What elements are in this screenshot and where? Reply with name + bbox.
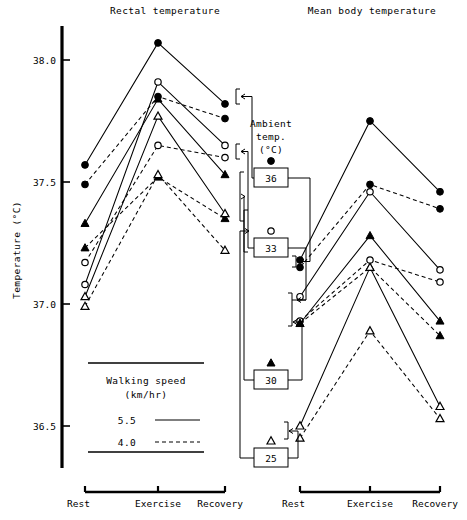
- series-line: [81, 95, 229, 227]
- series-line: [81, 170, 229, 309]
- x-axes: RestExerciseRecoveryRestExerciseRecovery: [67, 486, 458, 509]
- y-tick-label: 37.5: [33, 177, 56, 188]
- data-point-filled-circle: [222, 101, 229, 108]
- panel-title-rectal: Rectal temperature: [110, 5, 220, 16]
- data-point-open-triangle: [267, 437, 275, 444]
- data-point-filled-circle: [155, 40, 162, 47]
- data-point-filled-triangle: [81, 244, 89, 251]
- data-point-filled-triangle: [81, 219, 89, 226]
- ambient-annotation-line2: temp.: [256, 131, 286, 142]
- series-polyline: [300, 184, 440, 267]
- data-point-filled-circle: [437, 205, 444, 212]
- ambient-box-25[interactable]: 25: [254, 437, 288, 467]
- data-point-open-circle: [82, 281, 88, 287]
- ambient-box-label: 25: [265, 453, 276, 464]
- data-point-filled-circle: [367, 118, 374, 125]
- x-tick-label-rest: Rest: [67, 498, 90, 509]
- y-tick-label: 36.5: [33, 421, 56, 432]
- data-point-open-triangle: [296, 422, 304, 429]
- legend-title-line2: (km/hr): [125, 389, 168, 400]
- data-point-filled-circle: [82, 181, 89, 188]
- series-line: [82, 93, 229, 188]
- data-point-open-circle: [437, 279, 443, 285]
- data-point-filled-circle: [268, 158, 275, 165]
- data-point-open-circle: [367, 189, 373, 195]
- series-line: [82, 79, 228, 288]
- series-line: [82, 142, 228, 266]
- ambient-annotation-line1: Ambient: [250, 118, 292, 129]
- group-bracket: [240, 172, 244, 221]
- series-line: [296, 263, 444, 429]
- data-point-open-triangle: [436, 402, 444, 409]
- ambient-box-label: 36: [265, 173, 277, 184]
- y-axis-title: Temperature (°C): [11, 201, 22, 299]
- connector-path: [240, 231, 256, 458]
- legend-entry-5.5: 5.5: [118, 415, 200, 426]
- panel-mean-body-series: [296, 118, 444, 442]
- figure-container: Rectal temperature Mean body temperature…: [0, 0, 467, 520]
- series-polyline: [300, 267, 440, 426]
- series-line: [81, 112, 229, 300]
- data-point-filled-triangle: [267, 359, 275, 366]
- legend-entry-4.0: 4.0: [118, 437, 200, 448]
- data-point-open-triangle: [366, 327, 374, 334]
- walking-speed-legend: Walking speed(km/hr)5.54.0: [88, 363, 204, 452]
- data-point-open-triangle: [366, 263, 374, 270]
- group-bracket: [236, 89, 240, 104]
- series-polyline: [85, 175, 225, 307]
- data-point-open-triangle: [221, 210, 229, 217]
- group-bracket: [292, 256, 296, 267]
- data-point-filled-circle: [222, 115, 229, 122]
- x-tick-label-recovery: Recovery: [412, 498, 458, 509]
- data-point-open-circle: [268, 228, 274, 234]
- data-point-open-triangle: [436, 414, 444, 421]
- x-tick-label-rest: Rest: [282, 498, 305, 509]
- data-point-open-circle: [297, 293, 303, 299]
- data-point-open-circle: [155, 142, 161, 148]
- data-point-open-triangle: [81, 302, 89, 309]
- data-point-filled-circle: [297, 264, 304, 271]
- ambient-box-30[interactable]: 30: [254, 359, 288, 389]
- ambient-box-label: 30: [265, 375, 277, 386]
- series-polyline: [300, 236, 440, 324]
- panel-title-mean-body: Mean body temperature: [308, 5, 437, 16]
- data-point-filled-circle: [82, 162, 89, 169]
- data-point-open-triangle: [154, 170, 162, 177]
- legend-entry-label: 5.5: [118, 415, 136, 426]
- connector-path: [244, 197, 256, 381]
- x-tick-label-exercise: Exercise: [347, 498, 393, 509]
- data-point-open-circle: [155, 79, 161, 85]
- data-point-filled-circle: [437, 188, 444, 195]
- group-bracket: [288, 293, 292, 326]
- panel-rectal-series: [81, 40, 229, 310]
- ambient-box-36[interactable]: 36: [254, 158, 288, 187]
- data-point-open-triangle: [154, 112, 162, 119]
- y-tick-label: 37.0: [33, 299, 56, 310]
- data-point-open-triangle: [296, 434, 304, 441]
- series-line: [81, 173, 229, 251]
- ambient-box-label: 33: [265, 243, 276, 254]
- data-point-filled-circle: [367, 181, 374, 188]
- y-axis-ticks: 38.037.537.036.5: [33, 55, 70, 432]
- series-polyline: [85, 97, 225, 185]
- data-point-open-circle: [222, 154, 228, 160]
- legend-title-line1: Walking speed: [106, 375, 186, 386]
- group-bracket: [236, 144, 240, 159]
- x-tick-label-exercise: Exercise: [135, 498, 181, 509]
- data-point-open-triangle: [81, 292, 89, 299]
- ambient-annotation-line3: (°C): [259, 144, 283, 155]
- series-polyline: [300, 192, 440, 297]
- x-tick-label-recovery: Recovery: [197, 498, 243, 509]
- legend-entry-label: 4.0: [118, 437, 136, 448]
- group-bracket: [284, 422, 288, 439]
- y-tick-label: 38.0: [33, 55, 56, 66]
- data-point-open-circle: [82, 259, 88, 265]
- temperature-line-chart: Rectal temperature Mean body temperature…: [0, 0, 467, 520]
- data-point-open-circle: [437, 267, 443, 273]
- data-point-open-circle: [222, 142, 228, 148]
- data-point-filled-triangle: [366, 231, 374, 238]
- series-polyline: [300, 331, 440, 438]
- ambient-temp-boxes: 36333025: [254, 158, 288, 467]
- ambient-box-33[interactable]: 33: [254, 228, 288, 257]
- series-line: [297, 189, 443, 300]
